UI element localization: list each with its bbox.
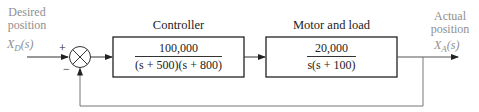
plant-label: Motor and load [266, 18, 397, 33]
input-label: Desired position [2, 6, 52, 32]
plus-sign: + [59, 41, 66, 56]
minus-sign: − [63, 62, 70, 77]
summing-junction [70, 47, 91, 68]
output-label-line2: position [424, 23, 476, 36]
controller-label: Controller [113, 18, 244, 33]
controller-transfer-function: 100,000 (s + 500)(s + 800) [113, 41, 244, 73]
plant-transfer-function: 20,000 s(s + 100) [266, 41, 397, 73]
controller-numerator: 100,000 [135, 41, 222, 55]
plant-numerator: 20,000 [307, 41, 355, 55]
input-signal: XD(s) [7, 37, 34, 53]
plant-denominator: s(s + 100) [307, 58, 355, 72]
output-signal: XA(s) [434, 38, 460, 54]
output-label: Actual position [424, 10, 476, 36]
fraction-bar [135, 56, 222, 57]
fraction-bar [307, 56, 355, 57]
controller-denominator: (s + 500)(s + 800) [135, 58, 222, 72]
input-label-line2: position [2, 19, 52, 32]
